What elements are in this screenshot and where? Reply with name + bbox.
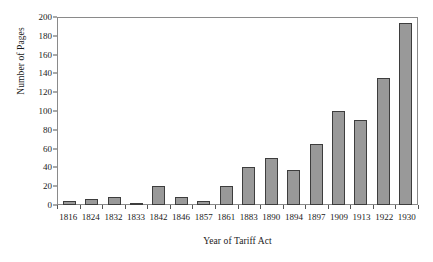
bar-slot [372, 18, 394, 204]
bar-slot [238, 18, 260, 204]
y-tick-label: 20 [26, 182, 52, 191]
x-tick-label: 1909 [328, 211, 351, 225]
x-tick-mark [373, 205, 374, 209]
bar-slot [350, 18, 372, 204]
x-tick-mark [395, 205, 396, 209]
x-tick-mark [125, 205, 126, 209]
bar [265, 158, 278, 205]
x-tick-mark [102, 205, 103, 209]
bar [332, 111, 345, 205]
bar-slot [80, 18, 102, 204]
bar [377, 78, 390, 205]
bar-chart-figure: Number of Pages 020406080100120140160180… [0, 0, 433, 262]
x-tick-mark [80, 205, 81, 209]
y-axis-title: Number of Pages [16, 0, 26, 126]
x-tick-label: 1824 [80, 211, 103, 225]
y-tick-label: 200 [26, 13, 52, 22]
x-tick-label: 1883 [238, 211, 261, 225]
x-tick-label: 1894 [283, 211, 306, 225]
bar-slot [215, 18, 237, 204]
x-tick-label: 1833 [125, 211, 148, 225]
x-tick-mark [350, 205, 351, 209]
x-tick-label: 1897 [305, 211, 328, 225]
bar [108, 197, 121, 205]
x-axis-title: Year of Tariff Act [57, 236, 418, 246]
y-tick-label: 120 [26, 88, 52, 97]
bar-slot [103, 18, 125, 204]
x-tick-label: 1842 [147, 211, 170, 225]
x-axis-tick-marks [57, 205, 418, 209]
x-tick-mark [238, 205, 239, 209]
bar-slot [305, 18, 327, 204]
bar [242, 167, 255, 205]
y-tick-label: 80 [26, 125, 52, 134]
x-tick-label: 1816 [57, 211, 80, 225]
x-tick-mark [170, 205, 171, 209]
bar [175, 197, 188, 205]
x-tick-label: 1913 [350, 211, 373, 225]
x-tick-label: 1846 [170, 211, 193, 225]
x-tick-mark [418, 205, 419, 209]
plot-area [57, 17, 418, 205]
x-tick-mark [328, 205, 329, 209]
x-tick-mark [192, 205, 193, 209]
x-tick-mark [147, 205, 148, 209]
y-tick-label: 100 [26, 107, 52, 116]
y-tick-label: 60 [26, 144, 52, 153]
x-tick-mark [305, 205, 306, 209]
bar-series [58, 18, 417, 204]
y-tick-label: 0 [26, 201, 52, 210]
x-tick-label: 1922 [373, 211, 396, 225]
bar-slot [282, 18, 304, 204]
bar-slot [260, 18, 282, 204]
bar-slot [125, 18, 147, 204]
x-tick-mark [283, 205, 284, 209]
bar [310, 144, 323, 205]
bar [399, 23, 412, 205]
x-tick-label: 1832 [102, 211, 125, 225]
bar-slot [327, 18, 349, 204]
bar-slot [193, 18, 215, 204]
x-tick-mark [57, 205, 58, 209]
x-tick-mark [260, 205, 261, 209]
bar-slot [148, 18, 170, 204]
bar [220, 186, 233, 205]
y-axis-tick-labels: 020406080100120140160180200 [26, 17, 52, 205]
y-tick-label: 160 [26, 50, 52, 59]
bar [287, 170, 300, 205]
bar-slot [170, 18, 192, 204]
x-tick-label: 1861 [215, 211, 238, 225]
x-tick-label: 1857 [192, 211, 215, 225]
x-axis-tick-labels: 1816182418321833184218461857186118831890… [57, 211, 418, 225]
x-tick-label: 1930 [395, 211, 418, 225]
bar-slot [58, 18, 80, 204]
y-tick-label: 140 [26, 69, 52, 78]
x-tick-mark [215, 205, 216, 209]
bar [152, 186, 165, 205]
bar-slot [395, 18, 417, 204]
x-tick-label: 1890 [260, 211, 283, 225]
bar [354, 120, 367, 205]
y-tick-label: 180 [26, 31, 52, 40]
y-tick-label: 40 [26, 163, 52, 172]
